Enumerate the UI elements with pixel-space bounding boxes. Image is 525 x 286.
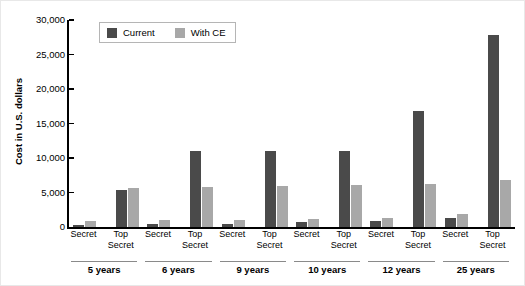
x-axis-group: SecretTopSecret10 years [290, 229, 364, 286]
bar [147, 224, 158, 227]
x-axis-group-rule [220, 261, 286, 262]
bar [159, 220, 170, 227]
bar [190, 151, 201, 227]
bar-group-inner [370, 20, 436, 227]
x-axis-category-labels: SecretTopSecret [290, 229, 364, 259]
x-axis-group-label: 12 years [364, 264, 438, 275]
x-axis-group: SecretTopSecret5 years [67, 229, 141, 286]
x-axis-label-top-secret: TopSecret [325, 229, 362, 251]
x-axis-group: SecretTopSecret12 years [364, 229, 438, 286]
bar-group [143, 20, 217, 227]
bar-pair [445, 20, 468, 227]
bar [488, 35, 499, 227]
x-axis-group-rule [71, 261, 137, 262]
x-axis-group-label: 9 years [216, 264, 290, 275]
x-axis-group-label: 25 years [439, 264, 513, 275]
bar [265, 151, 276, 227]
x-axis-label-top-secret: TopSecret [474, 229, 511, 251]
bar [234, 220, 245, 227]
x-axis-label-top-secret: TopSecret [176, 229, 213, 251]
bar-group [292, 20, 366, 227]
bar-pair [147, 20, 170, 227]
x-axis-group: SecretTopSecret6 years [141, 229, 215, 286]
x-axis-label-secret: Secret [362, 229, 399, 240]
x-axis-category-labels: SecretTopSecret [439, 229, 513, 259]
bar-pair [265, 20, 288, 227]
bar [445, 218, 456, 227]
bar [308, 219, 319, 227]
y-axis-tick-label: 5,000 [41, 188, 69, 198]
legend-swatch-icon [107, 28, 117, 38]
legend-label: Current [123, 27, 155, 38]
x-axis-group-rule [294, 261, 360, 262]
x-axis-group-rule [145, 261, 211, 262]
bar-pair [488, 20, 511, 227]
bar-group [366, 20, 440, 227]
plot-area: 30,00025,00020,00015,00010,0005,0000 [67, 20, 515, 229]
x-axis-label-secret: Secret [437, 229, 474, 240]
x-axis-label-top-secret: TopSecret [102, 229, 139, 251]
bar-group-inner [296, 20, 362, 227]
bar [116, 190, 127, 227]
bar-group-inner [73, 20, 139, 227]
bar [425, 184, 436, 227]
y-axis-tick-label: 20,000 [36, 84, 69, 94]
x-axis-category-labels: SecretTopSecret [216, 229, 290, 259]
bar [339, 151, 350, 227]
bar [202, 187, 213, 227]
bar-pair [222, 20, 245, 227]
x-axis-label-secret: Secret [65, 229, 102, 240]
legend-label: With CE [191, 27, 226, 38]
x-axis-group-label: 10 years [290, 264, 364, 275]
legend-item: Current [107, 27, 155, 38]
x-axis-label-top-secret: TopSecret [251, 229, 288, 251]
bar-pair [116, 20, 139, 227]
bar-group-inner [222, 20, 288, 227]
x-axis-group: SecretTopSecret25 years [439, 229, 513, 286]
x-axis-group-rule [443, 261, 509, 262]
bar [277, 186, 288, 227]
bar-group [218, 20, 292, 227]
x-axis-label-top-secret: TopSecret [399, 229, 436, 251]
bar-group [69, 20, 143, 227]
bar [413, 111, 424, 227]
bar [351, 185, 362, 227]
bar [457, 214, 468, 227]
x-axis-category-labels: SecretTopSecret [67, 229, 141, 259]
x-axis-label-secret: Secret [214, 229, 251, 240]
x-axis-label-secret: Secret [288, 229, 325, 240]
bar [370, 221, 381, 227]
y-axis-tick-label: 25,000 [36, 50, 69, 60]
bar-chart: Cost in U.S. dollars 30,00025,00020,0001… [0, 0, 525, 286]
x-axis-label-secret: Secret [139, 229, 176, 240]
bar [73, 225, 84, 227]
bar-pair [296, 20, 319, 227]
bar-group-inner [147, 20, 213, 227]
bar [500, 180, 511, 227]
x-axis-labels: SecretTopSecret5 yearsSecretTopSecret6 y… [67, 229, 513, 286]
bar-group-inner [445, 20, 511, 227]
y-axis-tick-label: 15,000 [36, 119, 69, 129]
bar-pair [339, 20, 362, 227]
bar-pair [413, 20, 436, 227]
y-axis-tick-label: 10,000 [36, 153, 69, 163]
bars-layer [69, 20, 515, 227]
x-axis-group-rule [368, 261, 434, 262]
bar [222, 224, 233, 227]
x-axis-category-labels: SecretTopSecret [141, 229, 215, 259]
bar-pair [370, 20, 393, 227]
legend-swatch-icon [175, 28, 185, 38]
bar-group [441, 20, 515, 227]
bar [382, 218, 393, 227]
x-axis-group-label: 5 years [67, 264, 141, 275]
bar-pair [73, 20, 96, 227]
bar [85, 221, 96, 227]
y-axis-title: Cost in U.S. dollars [13, 42, 24, 202]
y-axis-tick-label: 30,000 [36, 15, 69, 25]
bar-pair [190, 20, 213, 227]
bar [128, 188, 139, 227]
x-axis-group-label: 6 years [141, 264, 215, 275]
chart-legend: CurrentWith CE [99, 22, 236, 43]
bar [296, 222, 307, 227]
legend-item: With CE [175, 27, 226, 38]
